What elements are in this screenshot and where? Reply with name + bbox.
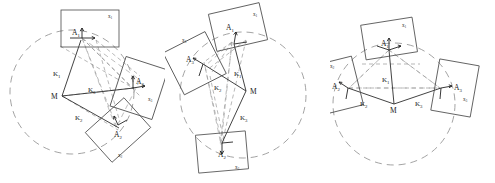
label-m-middle: M xyxy=(250,87,257,96)
label-a1-left: A1 xyxy=(72,28,80,38)
axis-arrows-left xyxy=(70,28,145,125)
dashed-construction-left xyxy=(60,38,140,130)
k2-vector-left xyxy=(62,96,119,128)
label-x3-right: x3 xyxy=(463,96,468,103)
label-k3-right: K3 xyxy=(415,100,423,109)
label-x1-right: x1 xyxy=(402,22,407,29)
middle-panel: A1 A3 A2 M K1 K2 K3 x1 x3 x2 xyxy=(165,0,330,183)
k-vectors-middle xyxy=(203,44,246,143)
right-panel: A1 A2 A3 M K1 K2 K3 x1 x2 x3 xyxy=(330,0,495,183)
frame-box-a3-left xyxy=(110,56,165,119)
label-a1-right: A1 xyxy=(381,39,389,49)
label-x2-right: x2 xyxy=(330,63,335,70)
dashed-circle-middle xyxy=(180,32,306,158)
label-x1-middle: x1 xyxy=(253,11,258,18)
label-k1-left: K1 xyxy=(53,70,61,79)
label-a3-middle: A3 xyxy=(186,55,194,65)
label-a3-right: A3 xyxy=(454,83,462,93)
label-a2-middle: A2 xyxy=(218,150,226,160)
frame-box-a1-middle xyxy=(208,3,267,52)
label-a1-middle: A1 xyxy=(226,23,234,33)
label-k2-left: K2 xyxy=(75,114,83,123)
figure-root: A1 A3 A2 M K1 K2 K3 x1 x3 x2 xyxy=(0,0,495,183)
label-x1-left: x1 xyxy=(108,13,113,20)
label-x3-left: x3 xyxy=(148,96,153,103)
k3-vector-left xyxy=(62,88,134,96)
k1-vector-right xyxy=(389,50,394,104)
label-a2-right: A2 xyxy=(332,82,340,92)
k-vectors-right xyxy=(348,50,441,104)
k1-vector-left xyxy=(62,40,81,96)
label-k1-right: K1 xyxy=(382,76,390,85)
label-m-right: M xyxy=(390,106,397,115)
label-k3-middle: K3 xyxy=(240,114,248,123)
label-k2-right: K2 xyxy=(360,100,368,109)
label-m-left: M xyxy=(51,92,58,101)
k2-vector-right xyxy=(348,88,394,104)
dashed-construction-middle xyxy=(204,40,246,146)
label-a3-left: A3 xyxy=(136,77,144,87)
label-k3-left: K3 xyxy=(88,86,96,95)
left-panel: A1 A3 A2 M K1 K2 K3 x1 x3 x2 xyxy=(0,0,165,183)
label-a2-left: A2 xyxy=(114,130,122,140)
label-k2-middle: K2 xyxy=(214,84,222,93)
